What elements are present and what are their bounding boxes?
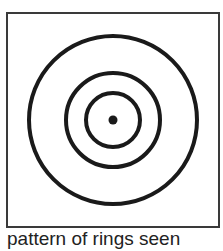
center-dot xyxy=(109,116,118,125)
concentric-rings-diagram xyxy=(0,0,223,251)
figure-caption: pattern of rings seen xyxy=(7,228,180,250)
